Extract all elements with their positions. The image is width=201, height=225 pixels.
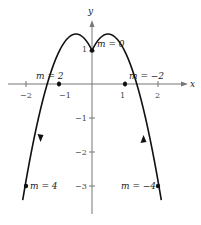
label-mneg4: m = −4 — [121, 181, 156, 191]
tick-x-1: 1 — [120, 91, 125, 100]
x-axis-arrow-icon — [181, 82, 188, 87]
tick-x-neg2: −2 — [20, 91, 32, 100]
tick-y-1: 1 — [82, 45, 87, 54]
tick-y-neg3: −3 — [75, 182, 87, 191]
point-m2 — [57, 82, 61, 86]
tick-x-2: 2 — [155, 91, 160, 100]
point-mneg4 — [156, 184, 160, 188]
tick-x-neg1: −1 — [59, 91, 71, 100]
point-m4 — [24, 184, 28, 188]
arrow-down-icon — [38, 134, 44, 142]
arrow-up-icon — [141, 135, 147, 143]
tick-y-neg1: −1 — [75, 114, 87, 123]
label-m4: m = 4 — [30, 181, 58, 191]
parabola-graph: −2 −1 1 2 1 −1 −2 −3 x y m = 0 m = 2 m =… — [0, 0, 201, 225]
label-m0: m = 0 — [97, 39, 125, 49]
x-axis-label: x — [190, 79, 195, 89]
y-axis-label: y — [87, 6, 94, 16]
point-m0 — [90, 48, 94, 52]
label-m2: m = 2 — [36, 71, 64, 81]
point-mneg2 — [123, 82, 127, 86]
label-mneg2: m = −2 — [129, 71, 164, 81]
tick-y-neg2: −2 — [75, 148, 87, 157]
y-axis-arrow-icon — [90, 20, 95, 27]
